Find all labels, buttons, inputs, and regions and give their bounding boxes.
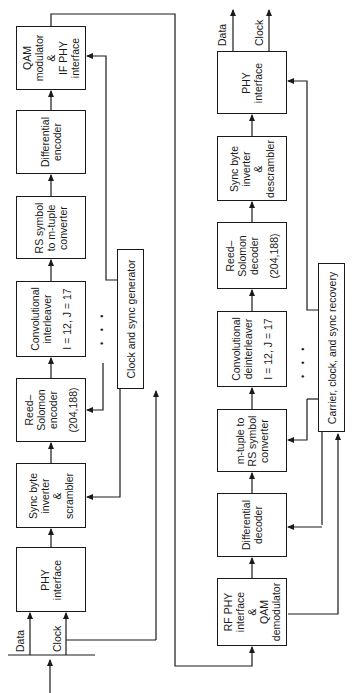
differential-decoder-block: Differentialdecoder xyxy=(217,493,287,557)
tx-data-label: Data xyxy=(14,630,26,652)
tx-clock-label: Clock xyxy=(51,626,63,652)
rs-symbol-to-mtuple-block: RS symbolto m-tupleconverter xyxy=(16,196,86,259)
convolutional-deinterleaver-block: ConvolutionaldeinterleaverI = 12, J = 17 xyxy=(217,311,287,387)
phy-interface-tx-block: PHYinterface xyxy=(16,547,86,612)
rx-ellipsis: • • • xyxy=(298,344,308,378)
tx-ellipsis: • • • xyxy=(97,311,107,345)
reed-solomon-decoder-block: Reed–Solomondecoder(204,188) xyxy=(217,222,287,289)
convolutional-interleaver-block: ConvolutionalinterleaverI = 12, J = 17 xyxy=(16,281,86,357)
reed-solomon-encoder-block: Reed–Solomonencoder(204,188) xyxy=(16,378,86,442)
rx-clock-label: Clock xyxy=(253,20,265,46)
rx-data-label: Data xyxy=(216,24,228,46)
sync-byte-inverter-scrambler-block: Sync byteinverter&scrambler xyxy=(16,463,86,528)
differential-encoder-block: Differentialencoder xyxy=(16,110,86,174)
qam-modulator-block: QAMmodulator&IF PHYinterface xyxy=(16,26,86,90)
mtuple-to-rs-symbol-block: m-tuple toRS symbolconverter xyxy=(217,409,287,472)
clock-sync-generator-block: Clock and sync generator xyxy=(117,249,144,389)
carrier-clock-sync-recovery-block: Carrier, clock, and sync recovery xyxy=(318,263,345,432)
phy-interface-rx-block: PHYinterface xyxy=(217,51,287,114)
rf-phy-qam-demodulator-block: RF PHYinterface&QAMdemodulator xyxy=(217,578,287,646)
sync-byte-inverter-descrambler-block: Sync byteinverter&descrambler xyxy=(217,136,287,201)
